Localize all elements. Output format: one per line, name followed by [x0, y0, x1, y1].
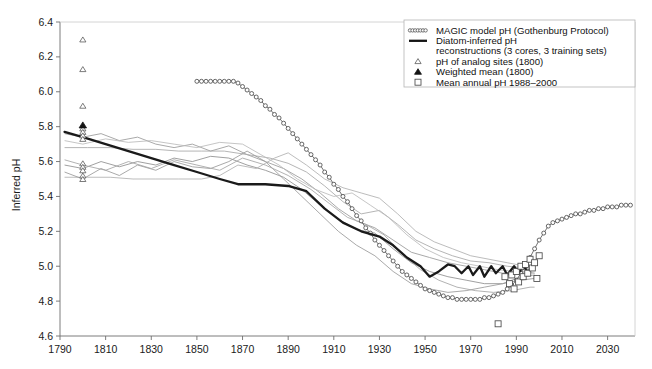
y-tick-label: 5.2: [38, 225, 53, 237]
magic-model-point: [560, 217, 564, 221]
magic-model-point: [533, 247, 537, 251]
magic-model-point: [373, 238, 377, 242]
magic-model-point: [218, 79, 222, 83]
magic-model-point: [222, 79, 226, 83]
chart-legend: MAGIC model pH (Gothenburg Protocol)Diat…: [404, 20, 635, 88]
magic-model-point: [601, 207, 605, 211]
legend-entry: MAGIC model pH (Gothenburg Protocol): [408, 25, 608, 36]
x-tick-label: 1970: [459, 343, 483, 355]
magic-model-point: [464, 297, 468, 301]
magic-model-point: [199, 79, 203, 83]
magic-model-point: [596, 207, 600, 211]
magic-model-point: [551, 221, 555, 225]
magic-model-point: [496, 292, 500, 296]
legend-entry-label: reconstructions (3 cores, 3 training set…: [436, 45, 607, 56]
magic-model-point: [364, 226, 368, 230]
magic-model-point: [277, 116, 281, 120]
ph-reconstruction-chart: 4.64.85.05.25.45.65.86.06.26.4 179018101…: [0, 0, 652, 369]
legend-entry-label: Diatom-inferred pH: [436, 35, 517, 46]
magic-model-point: [346, 200, 350, 204]
magic-model-point: [592, 208, 596, 212]
magic-model-point: [565, 215, 569, 219]
magic-model-point: [469, 297, 473, 301]
x-tick-label: 1950: [413, 343, 437, 355]
magic-model-point: [250, 92, 254, 96]
magic-model-point: [441, 294, 445, 298]
legend-entry: Mean annual pH 1988–2000: [415, 77, 557, 88]
magic-model-point: [419, 283, 423, 287]
mean-annual-ph-square: [532, 260, 538, 266]
magic-model-point: [482, 296, 486, 300]
magic-model-point: [323, 170, 327, 174]
y-tick-label: 6.0: [38, 85, 53, 97]
legend-entry: reconstructions (3 cores, 3 training set…: [436, 45, 607, 56]
magic-model-point: [428, 289, 432, 293]
magic-model-point: [341, 194, 345, 198]
mean-annual-ph-square: [536, 253, 542, 259]
magic-model-point: [204, 79, 208, 83]
magic-model-point: [615, 205, 619, 209]
y-tick-label: 5.8: [38, 120, 53, 132]
magic-model-point: [195, 79, 199, 83]
magic-model-point: [259, 99, 263, 103]
magic-model-point: [450, 296, 454, 300]
x-tick-label: 1890: [276, 343, 300, 355]
y-tick-label: 6.4: [38, 16, 53, 28]
magic-model-point: [236, 81, 240, 85]
y-tick-label: 5.6: [38, 155, 53, 167]
magic-model-point: [455, 297, 459, 301]
magic-model-point: [628, 203, 632, 207]
magic-model-point: [231, 79, 235, 83]
magic-model-point: [574, 212, 578, 216]
legend-entry-label: Mean annual pH 1988–2000: [436, 77, 557, 88]
y-tick-label: 5.4: [38, 190, 53, 202]
x-tick-label: 2030: [596, 343, 620, 355]
x-tick-label: 1830: [140, 343, 164, 355]
magic-model-point: [336, 187, 340, 191]
y-tick-label: 5.0: [38, 260, 53, 272]
magic-model-point: [505, 287, 509, 291]
magic-model-point: [300, 142, 304, 146]
magic-model-point: [254, 95, 258, 99]
magic-model-point: [583, 210, 587, 214]
magic-model-point: [432, 290, 436, 294]
magic-model-point: [245, 88, 249, 92]
magic-model-point: [314, 158, 318, 162]
y-tick-label: 6.2: [38, 50, 53, 62]
x-tick-label: 1910: [322, 343, 346, 355]
magic-model-point: [423, 287, 427, 291]
magic-model-point: [309, 153, 313, 157]
magic-model-point: [437, 292, 441, 296]
magic-model-point: [460, 297, 464, 301]
magic-model-point: [473, 297, 477, 301]
mean-annual-ph-square: [495, 321, 501, 327]
magic-model-point: [487, 296, 491, 300]
magic-model-point: [272, 112, 276, 116]
magic-model-point: [492, 294, 496, 298]
magic-model-point: [396, 264, 400, 268]
mean-annual-ph-square: [534, 275, 540, 281]
legend-entry-label: pH of analog sites (1800): [436, 56, 543, 67]
magic-model-point: [610, 205, 614, 209]
magic-model-point: [213, 79, 217, 83]
x-tick-label: 1870: [231, 343, 255, 355]
magic-model-point: [537, 238, 541, 242]
magic-model-point: [359, 219, 363, 223]
magic-model-point: [391, 259, 395, 263]
mean-annual-ph-square: [502, 274, 508, 280]
magic-model-point: [387, 254, 391, 258]
magic-model-point: [209, 79, 213, 83]
x-tick-label: 1850: [185, 343, 209, 355]
magic-model-point: [624, 203, 628, 207]
magic-model-point: [286, 126, 290, 130]
magic-model-point: [291, 132, 295, 136]
legend-entry-label: Weighted mean (1800): [436, 66, 533, 77]
magic-model-point: [263, 104, 267, 108]
y-tick-label: 4.8: [38, 295, 53, 307]
magic-model-point: [409, 276, 413, 280]
magic-model-point: [318, 163, 322, 167]
y-tick-label: 4.6: [38, 330, 53, 342]
magic-model-point: [446, 296, 450, 300]
magic-model-point: [478, 297, 482, 301]
legend-entry-label: MAGIC model pH (Gothenburg Protocol): [436, 25, 609, 36]
